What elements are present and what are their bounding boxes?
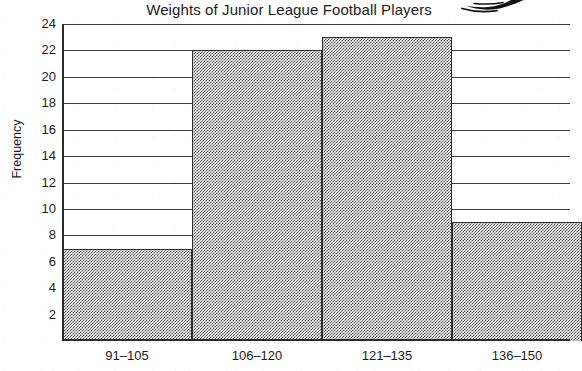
bar (452, 222, 582, 341)
y-tick-label: 16 (14, 123, 56, 136)
y-tick-label: 10 (14, 202, 56, 215)
y-tick-label: 12 (14, 176, 56, 189)
x-tick-label: 91–105 (62, 348, 192, 363)
x-tick-label: 136–150 (452, 348, 582, 363)
y-tick-label: 8 (14, 228, 56, 241)
bar (62, 249, 192, 341)
y-tick-label: 14 (14, 149, 56, 162)
x-tick-label: 106–120 (192, 348, 322, 363)
bar (322, 37, 452, 341)
y-tick-label: 24 (14, 17, 56, 30)
y-tick-label: 22 (14, 43, 56, 56)
y-tick-label: 6 (14, 255, 56, 268)
y-tick-label: 4 (14, 281, 56, 294)
chart-title: Weights of Junior League Football Player… (0, 0, 570, 20)
y-tick-label: 20 (14, 70, 56, 83)
y-tick-label: 18 (14, 96, 56, 109)
bar (192, 50, 322, 341)
y-tick-label: 2 (14, 308, 56, 321)
plot-area (62, 24, 570, 341)
x-tick-label: 121–135 (322, 348, 452, 363)
